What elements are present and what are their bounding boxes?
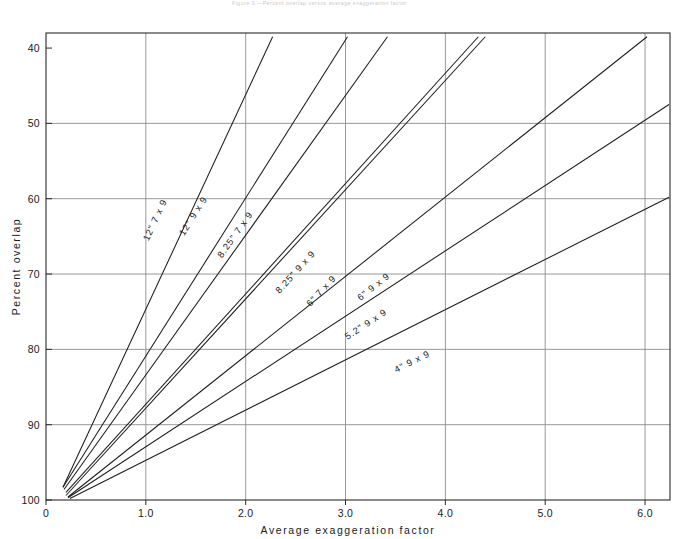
ytick-label: 80 [28, 343, 40, 355]
curve-3 [64, 37, 387, 490]
xtick-label: 6.0 [637, 507, 653, 519]
y-axis-title: Percent overlap [10, 218, 22, 316]
figure-caption-note: Figure 3.—Percent overlap versus average… [232, 0, 407, 6]
ytick-label: 60 [28, 193, 40, 205]
curve-1 [63, 37, 273, 487]
percent-overlap-plot: 01.02.03.04.05.06.0405060708090100Averag… [0, 0, 685, 539]
xtick-label: 0 [43, 507, 49, 519]
xtick-label: 5.0 [537, 507, 553, 519]
ytick-label: 90 [28, 419, 40, 431]
ytick-label: 40 [28, 42, 40, 54]
curve-label-8: 4" 9 x 9 [393, 349, 432, 375]
curve-label-2: 12" 9 x 9 [177, 194, 209, 237]
curve-4 [66, 37, 478, 493]
xtick-label: 4.0 [438, 507, 454, 519]
x-axis-title: Average exaggeration factor [261, 524, 436, 536]
chart-figure: Figure 3.—Percent overlap versus average… [0, 0, 685, 539]
curve-label-7: 5.2" 9 x 9 [343, 307, 389, 342]
curve-6 [68, 37, 647, 497]
ytick-label: 70 [28, 268, 40, 280]
curve-label-3: 8.25" 7 x 9 [215, 210, 255, 260]
curve-7 [68, 105, 669, 498]
ytick-label: 100 [22, 494, 40, 506]
curve-8 [70, 197, 669, 498]
ytick-label: 50 [28, 117, 40, 129]
xtick-label: 1.0 [138, 507, 154, 519]
curve-label-5: 6" 7 x 9 [305, 273, 338, 308]
curve-group [63, 37, 669, 499]
xtick-label: 3.0 [338, 507, 354, 519]
curve-label-1: 12" 7 x 9 [141, 198, 169, 243]
xtick-label: 2.0 [238, 507, 254, 519]
